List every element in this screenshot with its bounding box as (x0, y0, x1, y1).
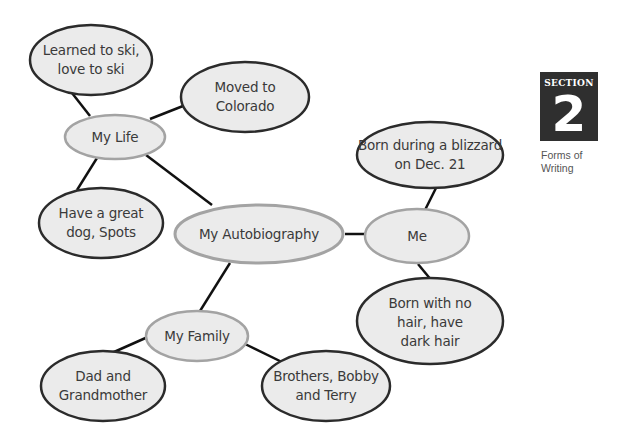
dad-text: Dad and Grandmother (41, 364, 165, 408)
hair-text: Born with no hair, have dark hair (357, 291, 503, 353)
colorado-line-2: Colorado (216, 97, 275, 116)
brothers-line-2: and Terry (295, 386, 356, 405)
colorado-text: Moved to Colorado (181, 75, 309, 119)
blizzard-text: Born during a blizzard on Dec. 21 (357, 133, 503, 177)
colorado-line-1: Moved to (214, 78, 275, 97)
section-caption-line-2: Writing (541, 162, 611, 175)
connector-me-blizzard (425, 188, 436, 210)
section-caption-line-1: Forms of (541, 149, 611, 162)
connector-mylife-center (146, 155, 212, 205)
connector-ski-mylife (72, 93, 90, 116)
hair-line-1: Born with no (388, 294, 471, 313)
blizzard-line-2: on Dec. 21 (395, 155, 466, 174)
my-life-text: My Life (65, 126, 165, 148)
dad-line-2: Grandmother (59, 386, 147, 405)
center-text: My Autobiography (175, 223, 343, 245)
blizzard-line-1: Born during a blizzard (358, 136, 502, 155)
ski-line-1: Learned to ski, (43, 41, 140, 60)
connector-colorado-mylife (150, 106, 183, 119)
brothers-text: Brothers, Bobby and Terry (262, 364, 390, 408)
ski-line-2: love to ski (58, 60, 125, 79)
hair-line-2: hair, have (397, 313, 463, 332)
dog-line-2: dog, Spots (66, 223, 136, 242)
center-label: My Autobiography (199, 225, 319, 244)
section-number: 2 (540, 86, 598, 142)
my-life-label: My Life (92, 128, 139, 147)
hair-line-3: dark hair (401, 332, 460, 351)
my-family-text: My Family (147, 325, 247, 347)
connector-center-family (200, 263, 230, 311)
dog-text: Have a great dog, Spots (39, 201, 163, 245)
dog-line-1: Have a great (59, 204, 144, 223)
my-family-label: My Family (164, 327, 230, 346)
section-caption: Forms of Writing (541, 149, 611, 175)
brothers-line-1: Brothers, Bobby (273, 367, 379, 386)
dad-line-1: Dad and (75, 367, 131, 386)
ski-text: Learned to ski, love to ski (31, 38, 151, 82)
connector-dog-mylife (77, 158, 97, 190)
me-label: Me (407, 227, 427, 246)
section-badge: SECTION 2 (540, 72, 598, 141)
me-text: Me (367, 225, 467, 247)
